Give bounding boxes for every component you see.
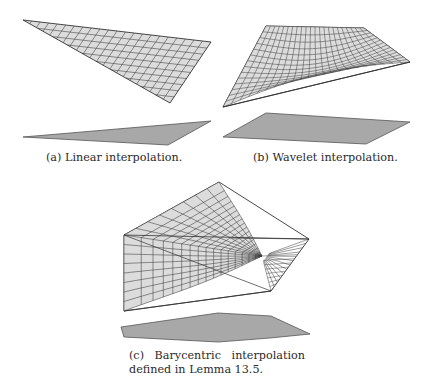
panel-b-wavelet [223, 26, 410, 144]
caption-b-text: (b) Wavelet interpolation. [253, 151, 398, 164]
linear-base-polygon [23, 121, 211, 145]
panel-a-linear [23, 20, 211, 145]
caption-c-word1: Barycentric [155, 349, 221, 363]
linear-surface-mesh [23, 20, 211, 103]
caption-c-line1: (c) Barycentric interpolation [129, 349, 305, 363]
caption-a-text: (a) Linear interpolation. [46, 151, 182, 164]
caption-c-line2: defined in Lemma 13.5. [129, 363, 305, 377]
barycentric-base-polygon [121, 313, 310, 342]
caption-c-label: (c) [129, 349, 144, 363]
caption-b: (b) Wavelet interpolation. [253, 151, 398, 165]
barycentric-surface-mesh [124, 182, 309, 311]
caption-a: (a) Linear interpolation. [46, 151, 182, 165]
panel-c-barycentric [121, 182, 310, 342]
wavelet-base-polygon [223, 113, 410, 144]
caption-c: (c) Barycentric interpolation defined in… [129, 349, 305, 377]
caption-c-word2: interpolation [232, 349, 305, 363]
wavelet-surface-mesh [223, 26, 410, 107]
figure-canvas [0, 0, 436, 384]
